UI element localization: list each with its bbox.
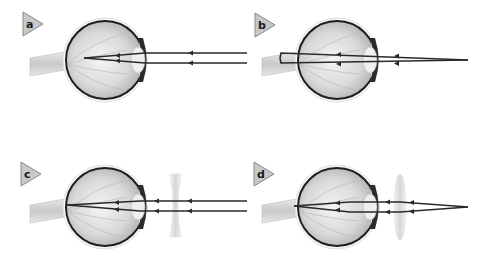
panel-label-c: c <box>21 162 41 186</box>
panel-label-b: b <box>255 13 275 37</box>
panel-d: d <box>254 162 468 249</box>
eye-illustration <box>30 18 147 102</box>
panel-label-text: c <box>24 168 31 181</box>
convex-lens <box>394 174 406 240</box>
panel-label-text: a <box>26 18 33 31</box>
eye-illustration <box>262 165 379 249</box>
panel-c: c <box>21 162 247 249</box>
panel-label-d: d <box>254 162 274 186</box>
eye-illustration <box>262 18 379 102</box>
panel-a: a <box>23 12 247 102</box>
panel-label-text: d <box>257 168 265 181</box>
eye-refraction-diagram: a b c <box>0 0 496 256</box>
panel-label-text: b <box>258 19 266 32</box>
concave-lens <box>170 174 181 237</box>
panel-label-a: a <box>23 12 43 36</box>
panel-b: b <box>255 13 468 102</box>
